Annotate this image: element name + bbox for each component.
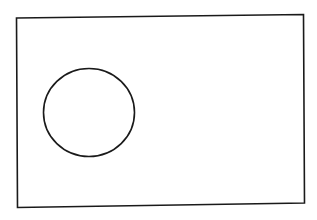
diagram-canvas [0,0,317,220]
background [0,0,317,220]
